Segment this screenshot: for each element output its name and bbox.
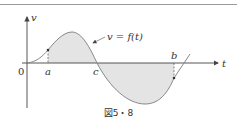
point-a [47, 49, 50, 52]
velocity-graph: v t 0 a c b v = f(t) [0, 0, 237, 122]
shaded-area-negative [97, 63, 174, 104]
curve-label: v = f(t) [107, 31, 143, 42]
curve-label-leader [93, 37, 105, 43]
t-axis-label: t [222, 58, 227, 69]
origin-label: 0 [18, 66, 24, 77]
point-b [173, 77, 176, 80]
label-a: a [45, 66, 51, 77]
label-b: b [171, 50, 177, 61]
label-c: c [93, 66, 99, 77]
figure-caption: 図5・8 [0, 106, 237, 119]
v-axis-label: v [31, 12, 37, 23]
